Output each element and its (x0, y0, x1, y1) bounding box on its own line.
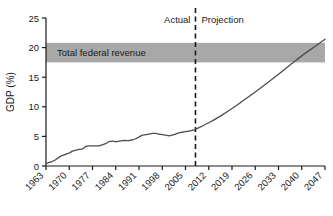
actual-label: Actual (164, 14, 190, 25)
chart-canvas: Total federal revenue 0510152025 1963197… (0, 0, 333, 216)
chart-figure: Total federal revenue 0510152025 1963197… (0, 0, 333, 216)
y-tick-label: 5 (34, 131, 39, 142)
y-tick-label: 25 (28, 13, 39, 24)
revenue-band-label: Total federal revenue (57, 47, 146, 58)
y-tick-label: 10 (28, 101, 39, 112)
revenue-band-group: Total federal revenue (46, 43, 325, 63)
y-tick-label: 15 (28, 72, 39, 83)
projection-label: Projection (201, 14, 243, 25)
y-tick-label: 20 (28, 42, 39, 53)
y-axis-title: GDP (%) (5, 72, 16, 112)
